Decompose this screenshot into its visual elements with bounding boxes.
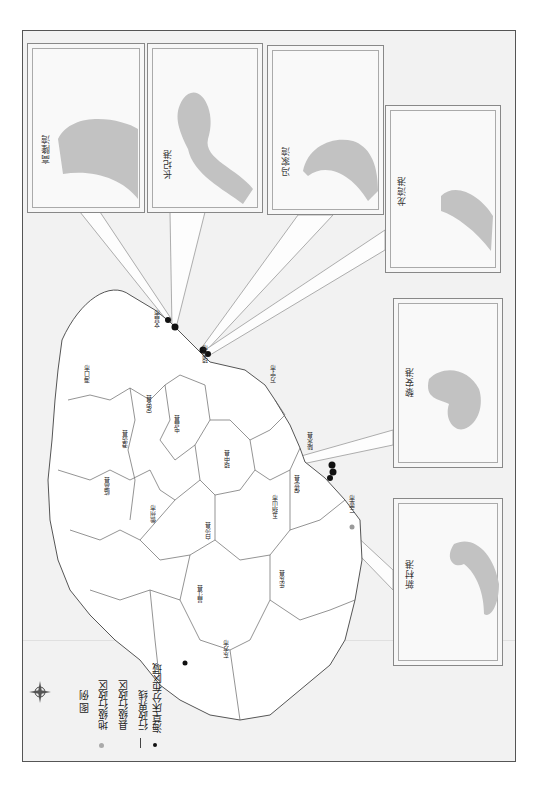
county-label: 屯昌县 (172, 415, 181, 433)
compass-rose-icon (28, 680, 52, 704)
county-label: 陵水县 (305, 432, 314, 450)
county-label: 儋州市 (148, 505, 157, 523)
county-label: 三亚市 (347, 495, 356, 513)
county-label: 琼海市 (200, 345, 209, 363)
county-label: 保亭县 (292, 475, 301, 493)
county-label: 琼中县 (222, 450, 231, 468)
legend-item: 海草床分布区域 (150, 663, 165, 733)
county-label: 东方市 (221, 640, 230, 658)
county-label: 临高县 (102, 477, 111, 495)
inset-label: 长圮港 (160, 149, 173, 179)
legend-item: 行政界线 (136, 690, 151, 730)
county-label: 文昌市 (152, 310, 161, 328)
county-label: 五指山市 (270, 495, 279, 519)
county-label: 万宁市 (268, 365, 277, 383)
inset-map: 高隆湾 (27, 43, 145, 213)
legend-symbol-city (99, 743, 104, 748)
inset-label: 龙湾港 (394, 176, 407, 206)
inset-map: 长圮港 (147, 43, 263, 213)
county-label: 定安县 (144, 395, 153, 413)
legend-item: 县级行政区 (116, 680, 131, 730)
inset-label: 黎安港 (402, 367, 415, 397)
inset-map: 新村港 (393, 498, 503, 666)
inset-map: 龙湾港 (385, 105, 501, 273)
county-label: 澄迈县 (120, 430, 129, 448)
county-label: 白沙县 (203, 522, 212, 540)
legend-title: 图 例 (77, 690, 92, 713)
legend-symbol-line (140, 738, 141, 748)
inset-map: 黎安港 (393, 298, 503, 468)
county-label: 海口市 (82, 365, 91, 383)
city-markers (350, 525, 355, 530)
legend-item: 地级行政区 (96, 680, 111, 730)
inset-label: 新村港 (402, 559, 415, 589)
inset-label: 冯家湾 (278, 146, 291, 176)
inset-map: 冯家湾 (267, 45, 384, 215)
county-label: 乐东县 (277, 570, 286, 588)
county-label: 昌江县 (195, 585, 204, 603)
inset-label: 高隆湾 (38, 134, 51, 164)
legend-symbol-seagrass (153, 743, 157, 747)
